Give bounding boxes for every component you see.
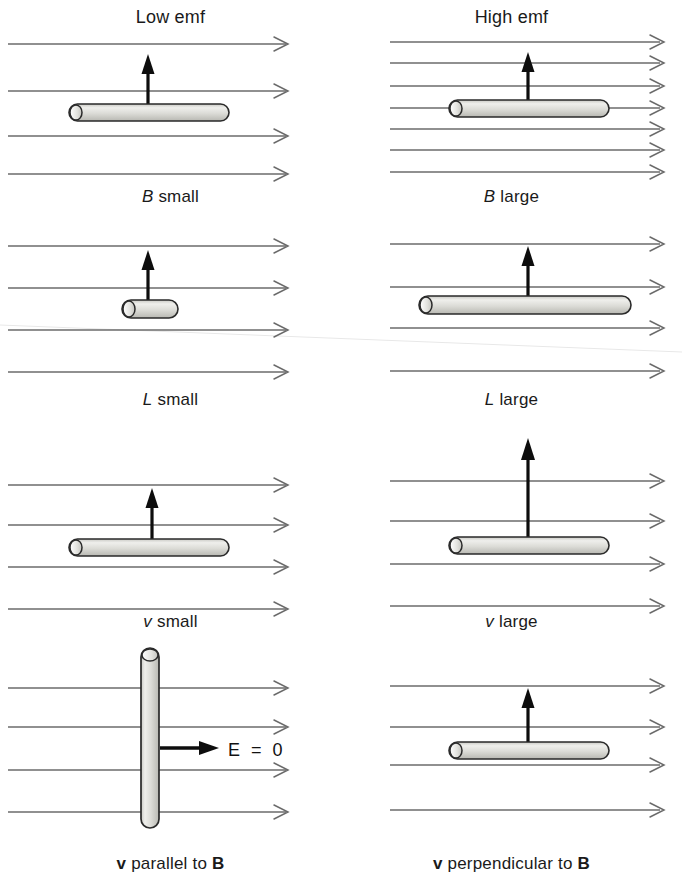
velocity-arrow-row2-left <box>146 488 159 540</box>
field-arrowheads-row3-left <box>274 681 288 819</box>
diagram-canvas <box>0 0 682 886</box>
motional-emf-figure: Low emf High emf B small B large L small… <box>0 0 682 886</box>
rod-row1-right <box>419 296 631 314</box>
velocity-arrow-row3-left <box>160 741 219 755</box>
velocity-arrow-row3-right <box>522 688 535 745</box>
velocity-arrow-row2-right <box>521 438 535 540</box>
scan-artifact-line <box>0 325 682 352</box>
panel-row2-left <box>8 478 288 616</box>
velocity-arrow-row1-left <box>142 250 155 307</box>
field-arrowheads-row1-right <box>650 237 664 378</box>
rod-row3-right <box>449 742 609 759</box>
panel-row3-left <box>8 648 288 828</box>
rod-row2-left <box>69 539 229 556</box>
panel-row1-left <box>8 239 288 379</box>
field-arrowheads-row2-right <box>650 474 664 613</box>
field-arrowheads-row0-left <box>274 37 288 181</box>
rod-row1-left <box>122 300 178 318</box>
velocity-arrow-row1-right <box>522 246 535 303</box>
field-arrowheads-row3-right <box>650 679 664 817</box>
panel-row2-right <box>390 438 664 613</box>
panel-row3-right <box>390 679 664 817</box>
rod-row2-right <box>449 537 609 554</box>
field-arrowheads-row1-left <box>274 239 288 379</box>
panel-row1-right <box>390 237 664 378</box>
field-arrowheads-row0-right <box>650 35 664 179</box>
field-arrowheads-row2-left <box>274 478 288 616</box>
panel-row0-right <box>390 35 664 179</box>
rod-row0-left <box>69 104 229 121</box>
rod-row3-left-vertical <box>141 648 159 828</box>
panel-row0-left <box>8 37 288 181</box>
rod-row0-right <box>449 100 609 117</box>
